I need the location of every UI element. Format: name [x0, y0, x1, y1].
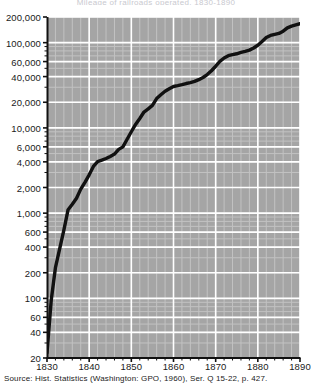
y-axis-tick-label: 40	[30, 327, 41, 338]
x-axis-labels: 1830184018501860187018801890	[0, 361, 312, 375]
y-axis-tick-label: 2,000	[17, 182, 41, 193]
chart-title-cropped: Mileage of railroads operated, 1830-1890	[0, 0, 312, 5]
plot-area	[47, 17, 300, 358]
y-axis-tick-label: 100,000	[6, 37, 41, 48]
y-axis-tick-label: 600	[25, 227, 41, 238]
x-axis-tick-label: 1880	[247, 361, 269, 372]
y-axis-labels: 200,000100,00060,00040,00020,00010,0006,…	[0, 0, 43, 389]
x-axis-tick-label: 1840	[78, 361, 100, 372]
y-axis-tick-label: 10,000	[11, 122, 41, 133]
x-axis-tick-label: 1850	[121, 361, 143, 372]
y-axis-tick-label: 100	[25, 293, 41, 304]
y-axis-tick-label: 40,000	[11, 71, 41, 82]
y-axis-tick-label: 400	[25, 242, 41, 253]
y-axis-tick-label: 20,000	[11, 97, 41, 108]
x-axis-tick-label: 1860	[163, 361, 185, 372]
figure-container: Mileage of railroads operated, 1830-1890…	[0, 0, 312, 389]
plot-svg	[47, 17, 300, 358]
source-note: Source: Hist. Statistics (Washington: GP…	[4, 374, 267, 383]
y-axis-tick-label: 1,000	[17, 208, 41, 219]
y-axis-tick-label: 60,000	[11, 56, 41, 67]
x-axis-tick-label: 1830	[36, 361, 58, 372]
y-axis-tick-label: 200,000	[6, 12, 41, 23]
y-axis-tick-label: 200	[25, 267, 41, 278]
y-axis-tick-label: 4,000	[17, 156, 41, 167]
x-axis-tick-label: 1870	[205, 361, 227, 372]
y-axis-tick-label: 60	[30, 312, 41, 323]
y-axis-tick-label: 6,000	[17, 141, 41, 152]
x-axis-tick-label: 1890	[289, 361, 311, 372]
